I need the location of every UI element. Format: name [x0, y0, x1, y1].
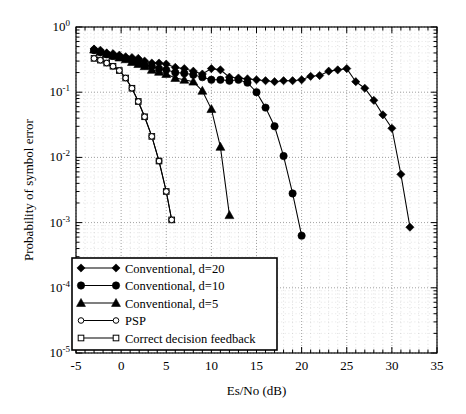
legend-label: Conventional, d=10	[125, 279, 224, 293]
data-point-marker-open-circle	[129, 85, 135, 91]
data-point-marker-open-circle	[78, 318, 84, 324]
legend: Conventional, d=20Conventional, d=10Conv…	[72, 258, 277, 350]
symbol-error-rate-chart: -505101520253035 10010-110-210-310-410-5…	[0, 0, 466, 414]
data-point-marker-open-circle	[123, 75, 129, 81]
data-point-marker-open-circle	[156, 158, 162, 164]
x-tick-label: 5	[163, 358, 170, 373]
data-point-marker-filled-circle	[208, 76, 215, 83]
data-point-marker-open-circle	[163, 189, 169, 195]
data-point-marker-filled-circle	[271, 123, 278, 130]
data-point-marker-open-circle	[91, 56, 97, 62]
data-point-marker-filled-circle	[298, 232, 305, 239]
data-point-marker-open-circle	[110, 63, 116, 69]
x-tick-label: 35	[431, 358, 444, 373]
x-tick-label: 10	[205, 358, 218, 373]
data-point-marker-open-circle	[117, 68, 123, 74]
data-point-marker-filled-circle	[112, 282, 119, 289]
x-tick-label: 25	[340, 358, 353, 373]
x-tick-label: 0	[118, 358, 125, 373]
legend-label: Conventional, d=20	[125, 262, 224, 276]
data-point-marker-filled-circle	[289, 190, 296, 197]
x-tick-label: 15	[250, 358, 263, 373]
x-tick-label: -5	[71, 358, 82, 373]
data-point-marker-filled-circle	[253, 89, 260, 96]
data-point-marker-open-circle	[113, 318, 119, 324]
legend-label: PSP	[125, 314, 146, 328]
data-point-marker-filled-circle	[217, 76, 224, 83]
data-point-marker-open-square	[113, 335, 119, 341]
data-point-marker-filled-circle	[77, 282, 84, 289]
y-axis-label: Probability of symbol error	[21, 118, 36, 261]
data-point-marker-filled-circle	[262, 104, 269, 111]
data-point-marker-open-circle	[104, 60, 110, 66]
data-point-marker-open-circle	[98, 57, 104, 63]
data-point-marker-open-circle	[169, 217, 175, 223]
legend-label: Correct decision feedback	[125, 332, 256, 346]
legend-label: Conventional, d=5	[125, 297, 218, 311]
data-point-marker-open-circle	[149, 134, 155, 140]
data-point-marker-filled-circle	[280, 152, 287, 159]
data-point-marker-open-circle	[142, 114, 148, 120]
x-axis-label: Es/No (dB)	[227, 383, 287, 398]
chart-figure: -505101520253035 10010-110-210-310-410-5…	[0, 0, 466, 414]
x-tick-label: 30	[385, 358, 398, 373]
data-point-marker-open-circle	[135, 99, 141, 105]
data-point-marker-open-square	[78, 335, 84, 341]
x-tick-label: 20	[295, 358, 308, 373]
